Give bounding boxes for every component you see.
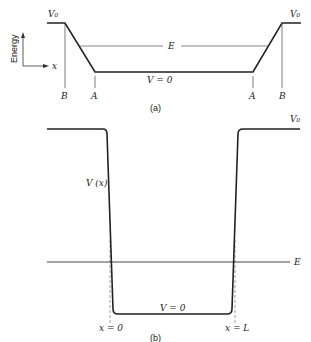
v0-label-left: V₀ xyxy=(48,9,58,19)
energy-label-a: E xyxy=(167,41,175,51)
panel-a: Energy x V₀ V₀ E V = 0 B A A B (a) xyxy=(9,9,301,113)
potential-label: V (x) xyxy=(86,178,108,188)
potential-well-curve xyxy=(47,129,300,314)
x-axis-arrow-icon xyxy=(43,64,49,68)
a-label-right: A xyxy=(248,91,256,101)
axis-indicator: Energy x xyxy=(9,32,57,71)
v0-label-b: V₀ xyxy=(290,114,300,124)
diagram-canvas: Energy x V₀ V₀ E V = 0 B A A B (a) V₀ xyxy=(0,0,311,342)
caption-a: (a) xyxy=(150,103,161,113)
energy-label-b: E xyxy=(293,257,301,267)
caption-b: (b) xyxy=(150,333,161,342)
x-axis-label: x xyxy=(52,61,57,71)
v-zero-label-b: V = 0 xyxy=(160,303,186,313)
panel-b: V₀ V (x) E V = 0 x = 0 x = L (b) xyxy=(47,114,301,342)
x-L-label: x = L xyxy=(225,323,249,333)
b-label-left: B xyxy=(60,91,68,101)
b-label-right: B xyxy=(278,91,286,101)
v0-label-right: V₀ xyxy=(290,9,300,19)
x-zero-label: x = 0 xyxy=(99,323,123,333)
a-label-left: A xyxy=(90,91,98,101)
energy-axis-arrow-icon xyxy=(21,32,25,38)
v-zero-label-a: V = 0 xyxy=(147,75,173,85)
energy-axis-label: Energy xyxy=(9,34,19,63)
